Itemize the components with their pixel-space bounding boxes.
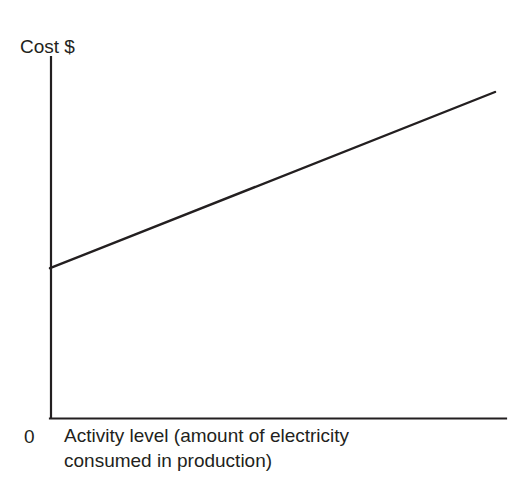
y-axis-title: Cost $ xyxy=(20,36,75,58)
cost-line-series xyxy=(50,92,495,268)
origin-tick-label: 0 xyxy=(24,425,35,448)
x-axis-title-line-2: consumed in production) xyxy=(64,448,464,473)
cost-behaviour-chart: · · · Cost $ 0 Activity level (amount of… xyxy=(0,0,532,495)
x-axis-title-line-1: Activity level (amount of electricity xyxy=(64,423,464,448)
plot-area xyxy=(0,0,532,495)
x-axis-title: Activity level (amount of electricity co… xyxy=(64,423,464,473)
